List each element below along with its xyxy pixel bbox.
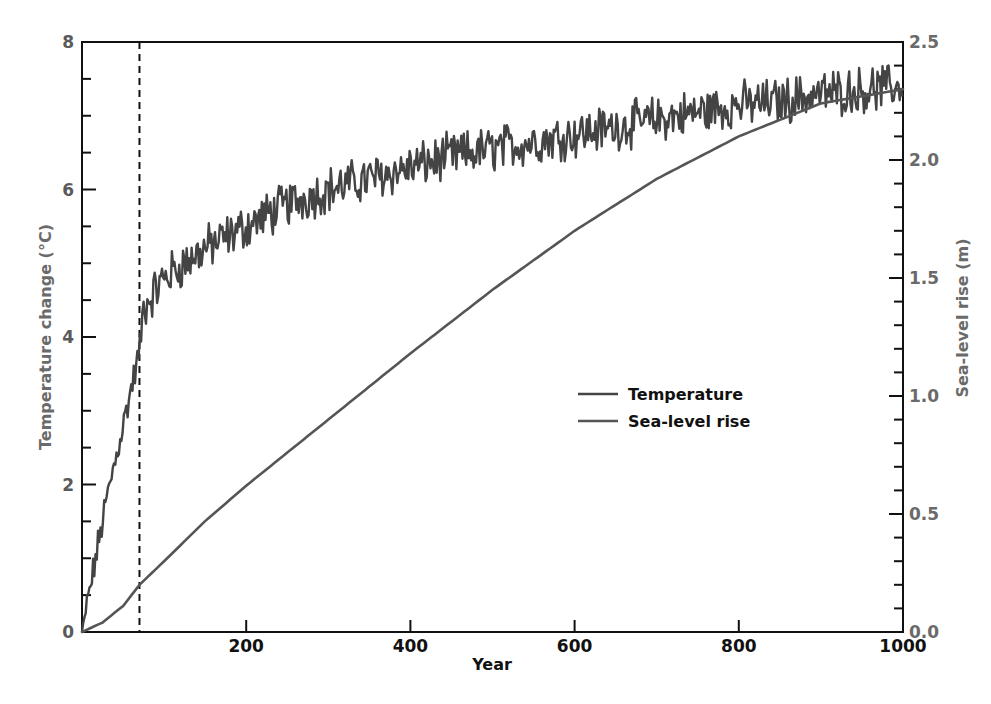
right-tick-label: 2.5 xyxy=(909,32,939,52)
left-axis-ticks: 02468 xyxy=(62,32,96,642)
legend: Temperature Sea-level rise xyxy=(578,385,750,431)
temperature-series-line xyxy=(82,66,902,632)
left-tick-label: 0 xyxy=(62,622,74,642)
right-tick-label: 0.5 xyxy=(909,504,939,524)
x-axis-title: Year xyxy=(471,655,512,674)
right-tick-label: 1.0 xyxy=(909,386,939,406)
x-tick-label: 600 xyxy=(557,636,593,656)
left-tick-label: 2 xyxy=(62,475,74,495)
x-tick-label: 200 xyxy=(228,636,264,656)
plot-frame xyxy=(82,42,903,632)
x-tick-label: 800 xyxy=(721,636,757,656)
right-axis-title: Sea-level rise (m) xyxy=(953,238,972,397)
legend-label-temperature: Temperature xyxy=(628,385,743,404)
right-tick-label: 1.5 xyxy=(909,268,939,288)
right-tick-label: 2.0 xyxy=(909,150,939,170)
x-tick-label: 400 xyxy=(393,636,429,656)
right-axis-ticks: 0.00.51.01.52.02.5 xyxy=(889,32,939,642)
chart: 02468 0.00.51.01.52.02.5 200400600800100… xyxy=(0,0,991,704)
x-tick-label: 1000 xyxy=(879,636,926,656)
left-axis-title: Temperature change (°C) xyxy=(36,224,55,450)
left-tick-label: 4 xyxy=(62,327,74,347)
legend-label-sea-level: Sea-level rise xyxy=(628,412,750,431)
x-axis-ticks: 2004006008001000 xyxy=(228,620,926,656)
left-tick-label: 8 xyxy=(62,32,74,52)
left-tick-label: 6 xyxy=(62,180,74,200)
sea-level-series-line xyxy=(82,89,903,632)
